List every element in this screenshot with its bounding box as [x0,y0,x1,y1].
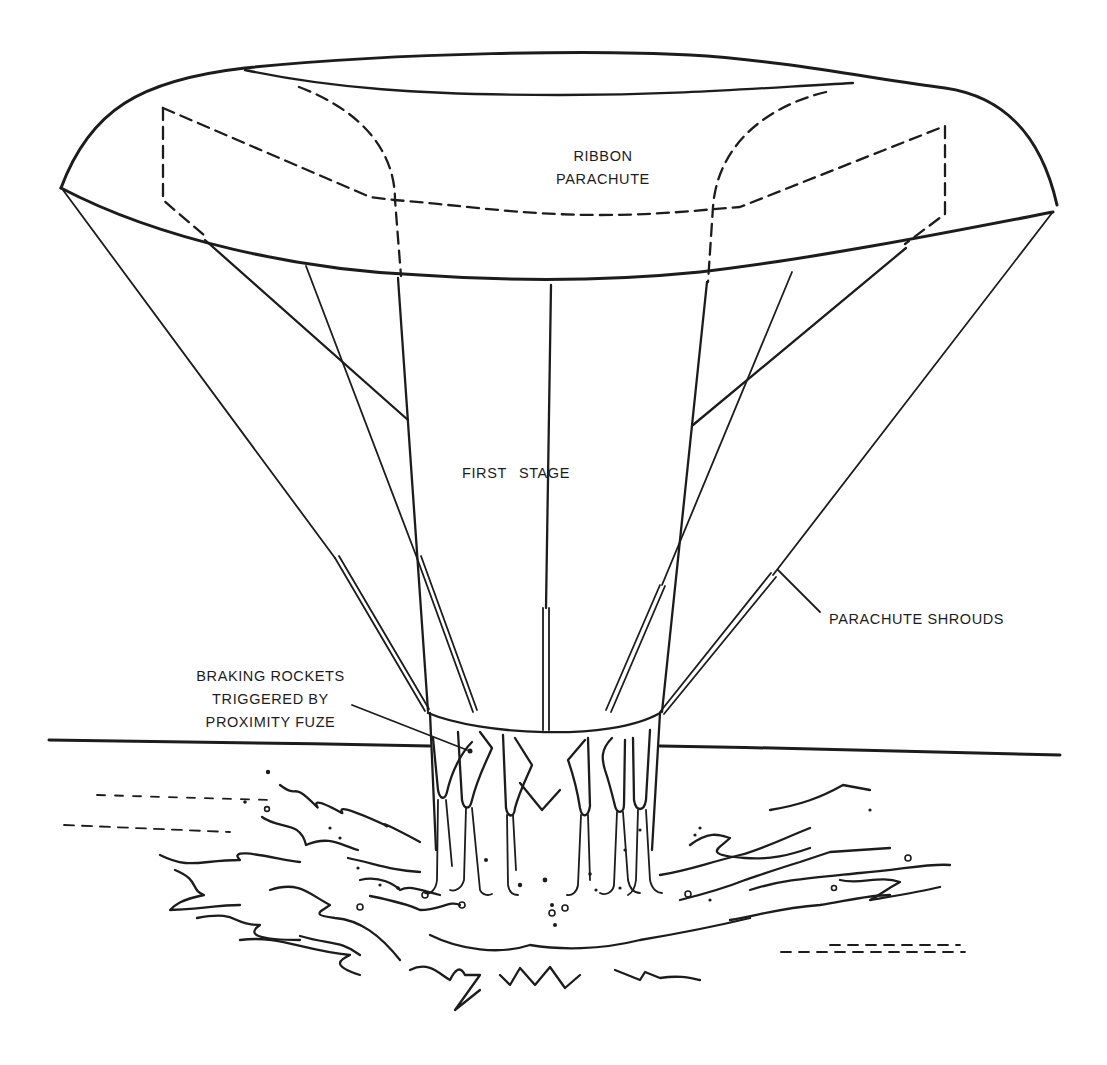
braking-rockets-label: BRAKING ROCKETS TRIGGERED BY PROXIMITY F… [178,665,363,734]
ribbon-parachute-label-line-2: PARACHUTE [533,168,673,191]
braking-rockets-label-line-2: TRIGGERED BY [178,688,363,711]
first-stage-label-word-2: STAGE [519,462,570,485]
parachute-shroud-lines [63,190,1052,730]
ribbon-parachute-label: RIBBON PARACHUTE [533,145,673,191]
first-stage-label-word-1: FIRST [462,462,507,485]
first-stage-label: FIRSTSTAGE [462,462,570,485]
braking-rockets-label-line-3: PROXIMITY FUZE [178,711,363,734]
parachute-shrouds-label-text: PARACHUTE SHROUDS [829,608,1004,631]
ribbon-parachute-label-line-1: RIBBON [533,145,673,168]
parachute-shrouds-label: PARACHUTE SHROUDS [829,608,1004,631]
braking-rockets-leader [352,705,467,750]
braking-rockets-label-line-1: BRAKING ROCKETS [178,665,363,688]
braking-rocket-nozzles [433,730,650,816]
leader-dot [468,749,473,754]
horizon-line [49,740,1060,755]
